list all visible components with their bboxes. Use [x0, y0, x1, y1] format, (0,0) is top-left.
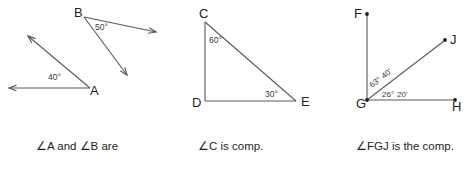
- vertex-label-B: B: [74, 5, 83, 20]
- angle-measure-FGJ-degrees: 63°: [368, 75, 383, 89]
- figure-complementary-angles-A-B: A B 40° 50°: [9, 5, 156, 98]
- figure-complementary-angles-FGJ-JGH: F G J H 63° 40' 26° 20': [354, 6, 461, 114]
- angle-measure-FGJ: 63° 40': [368, 67, 394, 90]
- angle-measure-B: 50°: [95, 22, 108, 32]
- vertex-label-E: E: [301, 94, 310, 109]
- endpoint-dot-J: [443, 38, 447, 42]
- vertex-label-C: C: [199, 6, 208, 21]
- angle-measure-A: 40°: [48, 72, 61, 82]
- vertex-label-J: J: [450, 32, 457, 47]
- vertex-label-F: F: [354, 6, 362, 21]
- angle-measure-JGH: 26° 20': [382, 90, 408, 99]
- endpoint-dot-F: [365, 12, 369, 16]
- segment-CE: [205, 22, 296, 101]
- vertex-label-H: H: [452, 99, 461, 114]
- vertex-label-D: D: [192, 95, 201, 110]
- caption-figure-3: ∠FGJ is the comp. of ∠JGH: [356, 124, 476, 170]
- figure-right-triangle-CDE: C D E 60° 30°: [192, 6, 310, 110]
- angle-measure-C: 60°: [209, 35, 222, 45]
- angle-measure-JGH-minutes: 20': [397, 90, 408, 99]
- angle-measure-JGH-degrees: 26°: [382, 90, 394, 99]
- caption-figure-2-line-1: ∠C is comp.: [198, 140, 263, 152]
- vertex-label-A: A: [90, 83, 99, 98]
- angle-measure-E: 30°: [265, 89, 278, 99]
- angle-measure-FGJ-minutes: 40': [380, 67, 394, 81]
- caption-figure-2: ∠C is comp. to ∠E: [198, 124, 318, 170]
- caption-figure-3-line-1: ∠FGJ is the comp.: [356, 140, 454, 152]
- caption-figure-1-line-1: ∠A and ∠B are: [36, 140, 118, 152]
- caption-figure-1: ∠A and ∠B are complementary: [36, 124, 186, 170]
- vertex-label-G: G: [356, 96, 366, 111]
